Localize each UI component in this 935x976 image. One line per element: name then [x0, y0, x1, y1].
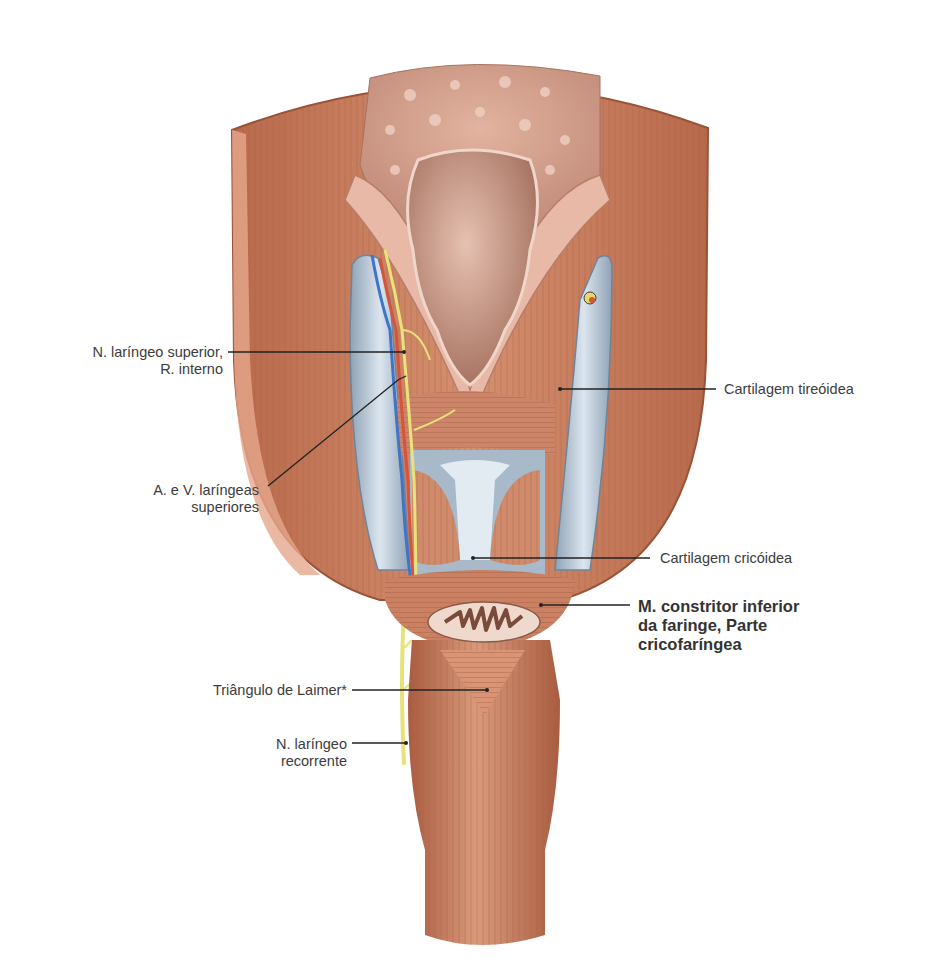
label-a-v-laringeas: A. e V. laríngeas superiores	[153, 482, 259, 516]
label-line: A. e V. laríngeas	[153, 482, 259, 499]
label-line: recorrente	[276, 753, 347, 770]
cricoid-cartilage	[410, 450, 545, 580]
esophagus	[408, 602, 560, 945]
pharynx-larynx-illustration	[0, 0, 935, 976]
label-cartilagem-tireoidea: Cartilagem tireóidea	[724, 381, 854, 398]
label-triangulo-laimer: Triângulo de Laimer*	[213, 682, 347, 699]
arytenoid-muscles	[395, 391, 555, 455]
label-line: superiores	[153, 499, 259, 516]
label-text: Cartilagem cricóidea	[660, 550, 792, 566]
label-line: M. constritor inferior	[638, 597, 799, 616]
label-text: Cartilagem tireóidea	[724, 381, 854, 397]
label-line: da faringe, Parte	[638, 616, 799, 635]
label-line: cricofaríngea	[638, 635, 799, 654]
label-n-laringeo-superior: N. laríngeo superior, R. interno	[92, 344, 223, 378]
label-text: Triângulo de Laimer*	[213, 682, 347, 698]
label-line: N. laríngeo superior,	[92, 344, 223, 361]
label-line: R. interno	[92, 361, 223, 378]
label-n-laringeo-recorrente: N. laríngeo recorrente	[276, 736, 347, 770]
label-line: N. laríngeo	[276, 736, 347, 753]
label-m-constritor: M. constritor inferior da faringe, Parte…	[638, 597, 799, 654]
label-cartilagem-cricoidea: Cartilagem cricóidea	[660, 550, 792, 567]
